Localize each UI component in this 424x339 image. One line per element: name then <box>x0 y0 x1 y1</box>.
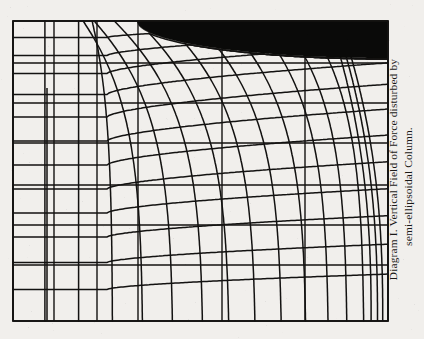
figure-page: Diagram I. Vertical Field of Force distu… <box>0 0 424 339</box>
field-diagram <box>0 0 424 339</box>
figure-caption: Diagram I. Vertical Field of Force distu… <box>377 0 423 339</box>
caption-line-1: Diagram I. Vertical Field of Force distu… <box>386 59 400 280</box>
scan-bleed-bottom <box>10 328 410 339</box>
caption-line-2: semi-ellipsoidal Column. <box>401 127 415 246</box>
